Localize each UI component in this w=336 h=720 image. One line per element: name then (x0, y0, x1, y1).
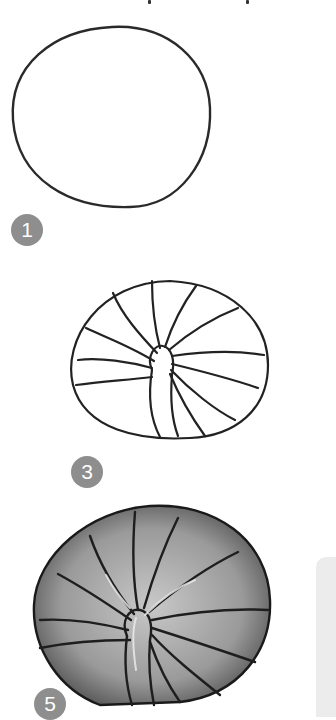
step-badge-3: 3 (71, 456, 103, 488)
spiral-shaded-drawing (0, 490, 328, 705)
step-1: 1 (0, 0, 328, 260)
step-badge-5: 5 (34, 688, 66, 720)
step-5: 5 (0, 490, 328, 705)
circle-drawing (0, 0, 328, 260)
step-badge-1: 1 (11, 214, 43, 246)
step-3: 3 (0, 260, 328, 490)
spiral-outline-drawing (0, 260, 328, 490)
side-panel-edge (316, 557, 336, 717)
